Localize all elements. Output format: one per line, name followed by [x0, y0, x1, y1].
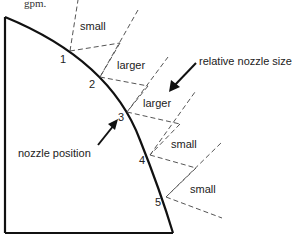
segment-size-label-4: small — [171, 138, 197, 150]
segment-size-label-2: larger — [117, 59, 145, 71]
nozzle-label-1: 1 — [60, 53, 66, 65]
nozzle-label-4: 4 — [139, 154, 145, 166]
nozzle-position-label: nozzle position — [18, 147, 91, 159]
nozzle-diagram: gpm. 1 2 3 4 5 small larger larger smal — [0, 0, 303, 236]
nozzle-label-2: 2 — [89, 78, 95, 90]
relative-nozzle-size-label: relative nozzle size — [199, 55, 292, 67]
nozzle-position-arrow-icon — [98, 119, 118, 145]
header-fragment: gpm. — [24, 0, 47, 9]
segment-size-label-5: small — [190, 183, 216, 195]
nozzle-label-3: 3 — [118, 111, 124, 123]
segment-size-label-1: small — [80, 20, 106, 32]
segment-size-label-3: larger — [143, 97, 171, 109]
boom-outline — [5, 17, 173, 233]
nozzle-label-5: 5 — [155, 196, 161, 208]
relative-size-arrow-icon — [169, 63, 196, 92]
